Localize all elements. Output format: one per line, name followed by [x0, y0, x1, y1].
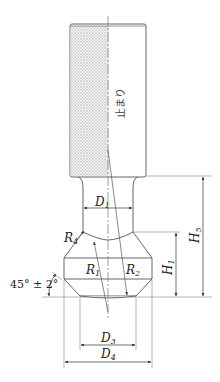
- handle-text: 止まり: [115, 88, 126, 118]
- label-angle: 45° ± 2°: [10, 278, 58, 291]
- label-h5: H5: [188, 227, 203, 244]
- knurled-grip: [71, 26, 109, 176]
- label-r4: R4: [63, 231, 78, 246]
- label-d3: D3: [100, 331, 116, 346]
- gauge-drawing: 止まり D1 R4 R1 R2 45° ± 2° D3 D4 H1 H5: [0, 0, 220, 382]
- label-d1: D1: [94, 195, 110, 210]
- label-h1: H1: [161, 259, 176, 276]
- label-d4: D4: [100, 347, 116, 362]
